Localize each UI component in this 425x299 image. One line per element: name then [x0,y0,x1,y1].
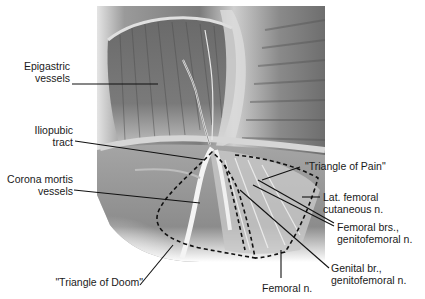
label-line: Lat. femoral [323,191,383,203]
label-line: genitofemoral n. [337,233,412,245]
label-line: Femoral brs., [337,221,412,233]
label-line: vessels [7,185,73,197]
anatomy-figure: Epigastric vessels Iliopubic tract Coron… [0,0,425,299]
label-triangle-of-doom: "Triangle of Doom" [55,276,143,288]
label-lat-femoral-cutaneous: Lat. femoral cutaneous n. [323,191,383,215]
illustration-canvas [0,0,425,299]
label-line: "Triangle of Pain" [305,160,386,172]
label-line: Genital br., [331,262,406,274]
label-triangle-of-pain: "Triangle of Pain" [305,160,386,172]
label-line: tract [34,136,73,148]
label-line: Iliopubic [34,124,73,136]
illustration-body [97,6,325,270]
label-line: genitofemoral n. [331,274,406,286]
label-line: Femoral n. [262,282,312,294]
label-femoral-nerve: Femoral n. [262,282,312,294]
label-line: "Triangle of Doom" [55,276,143,288]
label-corona-mortis-vessels: Corona mortis vessels [7,173,73,197]
label-line: vessels [24,72,70,84]
label-line: Epigastric [24,60,70,72]
label-genital-br-genitofemoral: Genital br., genitofemoral n. [331,262,406,286]
label-line: Corona mortis [7,173,73,185]
label-epigastric-vessels: Epigastric vessels [24,60,70,84]
label-femoral-brs-genitofemoral: Femoral brs., genitofemoral n. [337,221,412,245]
label-line: cutaneous n. [323,203,383,215]
label-iliopubic-tract: Iliopubic tract [34,124,73,148]
